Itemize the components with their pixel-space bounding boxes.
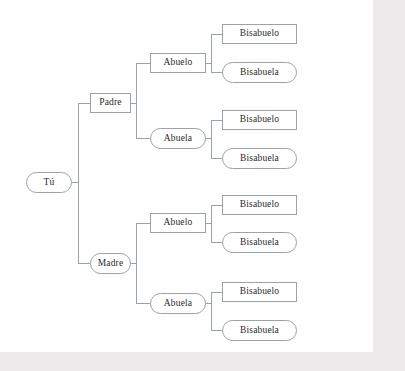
node-abuelo-materno[interactable]: Abuelo bbox=[150, 213, 206, 233]
node-abuela-paterna[interactable]: Abuela bbox=[150, 128, 206, 149]
node-madre[interactable]: Madre bbox=[90, 253, 131, 274]
edge-madre-to-abuela bbox=[136, 303, 150, 304]
node-bisabuela-3[interactable]: Bisabuela bbox=[222, 232, 297, 253]
document-page: Tú Padre Madre Abuelo Abuela Abuelo Abue… bbox=[0, 0, 373, 352]
edge-madre-to-abuelo bbox=[136, 223, 150, 224]
node-bisabuelo-1[interactable]: Bisabuelo bbox=[222, 24, 297, 44]
node-bisabuelo-3[interactable]: Bisabuelo bbox=[222, 195, 297, 215]
node-bisabuelo-4[interactable]: Bisabuelo bbox=[222, 282, 297, 302]
node-tu[interactable]: Tú bbox=[26, 172, 72, 193]
edge-root-trunk bbox=[78, 103, 79, 263]
node-abuela-materna[interactable]: Abuela bbox=[150, 293, 206, 314]
family-tree-diagram: Tú Padre Madre Abuelo Abuela Abuelo Abue… bbox=[0, 0, 373, 352]
edge-padre-to-abuela bbox=[136, 138, 150, 139]
edge-abuela-materna-trunk bbox=[211, 292, 212, 330]
node-padre[interactable]: Padre bbox=[90, 93, 131, 113]
edge-padre-trunk bbox=[136, 63, 137, 138]
edge-abuelo-paterno-trunk bbox=[211, 34, 212, 72]
node-abuelo-paterno[interactable]: Abuelo bbox=[150, 53, 206, 73]
edge-abuelo-materno-trunk bbox=[211, 205, 212, 242]
edge-madre-trunk bbox=[136, 223, 137, 303]
edge-root-to-padre bbox=[78, 103, 90, 104]
node-bisabuela-2[interactable]: Bisabuela bbox=[222, 148, 297, 169]
edge-abuela-paterna-trunk bbox=[211, 120, 212, 158]
edge-root-to-madre bbox=[78, 263, 90, 264]
node-bisabuela-4[interactable]: Bisabuela bbox=[222, 320, 297, 341]
edge-padre-to-abuelo bbox=[136, 63, 150, 64]
node-bisabuela-1[interactable]: Bisabuela bbox=[222, 62, 297, 83]
node-bisabuelo-2[interactable]: Bisabuelo bbox=[222, 110, 297, 130]
